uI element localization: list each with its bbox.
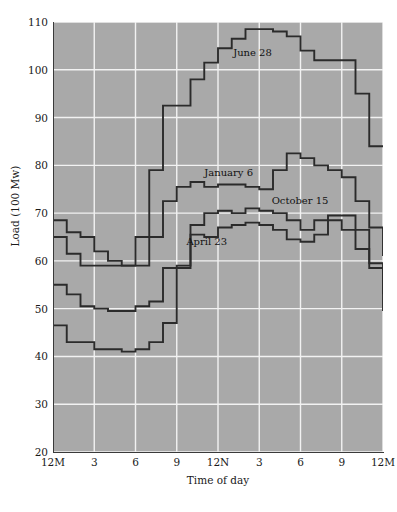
series-label-january-6: January 6 <box>204 167 253 178</box>
x-tick-label: 9 <box>320 456 364 468</box>
x-tick-label: 6 <box>279 456 323 468</box>
y-tick-label: 110 <box>4 17 48 27</box>
y-tick-label: 50 <box>4 304 48 314</box>
y-axis-label: Load (100 Mw) <box>9 131 21 281</box>
x-tick-label: 3 <box>72 456 116 468</box>
series-label-october-15: October 15 <box>272 195 329 206</box>
x-tick-label: 9 <box>155 456 199 468</box>
y-tick-label: 100 <box>4 65 48 75</box>
series-label-april-23: April 23 <box>186 236 227 247</box>
y-tick-label: 90 <box>4 113 48 123</box>
y-tick-label: 30 <box>4 399 48 409</box>
load-profile-chart: 2030405060708090100110 12M36912N36912M J… <box>0 0 397 512</box>
x-axis-label: Time of day <box>53 474 383 486</box>
y-axis-ticks: 2030405060708090100110 <box>0 0 48 512</box>
series-label-june-28: June 28 <box>233 47 272 58</box>
series-line <box>53 208 383 311</box>
x-tick-label: 12N <box>196 456 240 468</box>
y-tick-label: 40 <box>4 351 48 361</box>
x-tick-label: 12M <box>361 456 397 468</box>
x-tick-label: 6 <box>114 456 158 468</box>
x-tick-label: 3 <box>237 456 281 468</box>
x-tick-label: 12M <box>31 456 75 468</box>
